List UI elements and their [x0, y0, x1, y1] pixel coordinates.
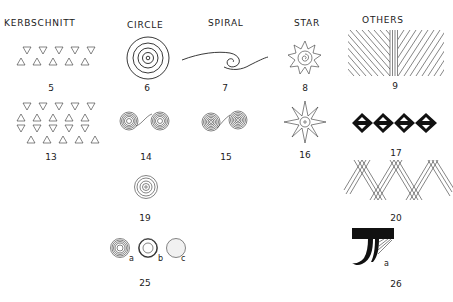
- figure-label-14: 14: [131, 152, 161, 162]
- figure-5-triangles: [15, 45, 105, 75]
- figure-8-star: [287, 40, 323, 76]
- header-star: STAR: [294, 18, 320, 28]
- figure-label-19: 19: [130, 213, 160, 223]
- figure-25-sublabel-c: c: [181, 254, 185, 263]
- figure-25-sublabel-b: b: [158, 254, 163, 263]
- figure-26-hook-ornament: [352, 228, 400, 270]
- figure-6-concentric-circles: [125, 35, 171, 81]
- figure-16-eight-point-star: [283, 100, 327, 144]
- figure-label-16: 16: [290, 150, 320, 160]
- figure-label-8: 8: [290, 83, 320, 93]
- header-spiral: SPIRAL: [208, 18, 244, 28]
- figure-26-sublabel-a: a: [384, 259, 389, 268]
- figure-20-crossing-lines: [352, 160, 448, 202]
- figure-label-9: 9: [380, 81, 410, 91]
- figure-label-25: 25: [130, 278, 160, 288]
- figure-14-double-spiral: [118, 110, 172, 132]
- header-others: OTHERS: [362, 15, 404, 25]
- figure-label-26: 26: [381, 279, 411, 289]
- figure-25-circle-variants: [110, 237, 190, 259]
- figure-label-13: 13: [36, 152, 66, 162]
- figure-label-17: 17: [381, 148, 411, 158]
- figure-19-concentric-circles: [133, 174, 159, 200]
- figure-label-20: 20: [381, 213, 411, 223]
- figure-25-sublabel-a: a: [129, 254, 134, 263]
- figure-label-15: 15: [211, 152, 241, 162]
- figure-label-6: 6: [132, 83, 162, 93]
- figure-17-diamond-chain: [352, 112, 438, 134]
- header-circle: CIRCLE: [127, 20, 164, 30]
- figure-label-5: 5: [36, 83, 66, 93]
- figure-9-hatched-lines: [348, 30, 444, 76]
- header-kerbschnitt: KERBSCHNITT: [4, 18, 76, 28]
- figure-13-triangles: [15, 101, 105, 151]
- figure-7-spiral: [180, 45, 270, 75]
- figure-label-7: 7: [210, 83, 240, 93]
- figure-15-double-spiral: [201, 110, 249, 132]
